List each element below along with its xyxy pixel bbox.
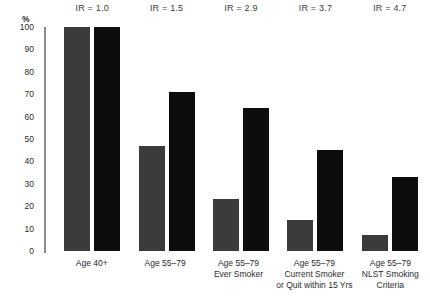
y-axis-tick-label: 40 xyxy=(25,156,34,166)
bar-group xyxy=(278,27,352,251)
ir-annotation: IR = 2.9 xyxy=(204,3,278,19)
x-axis-category-label: Age 55–79Current Smokeror Quit within 15… xyxy=(275,258,353,291)
y-axis-line xyxy=(44,27,46,253)
bar-group xyxy=(204,27,278,251)
bar-chart: IR = 1.0IR = 1.5IR = 2.9IR = 3.7IR = 4.7… xyxy=(0,0,430,303)
y-axis-tick-label: 90 xyxy=(25,44,34,54)
bar-series-2 xyxy=(392,177,418,251)
bar-group xyxy=(129,27,203,251)
plot-area xyxy=(55,27,427,251)
ir-annotation: IR = 1.0 xyxy=(55,3,129,19)
x-axis-category-label: Age 55–79NLST SmokingCriteria xyxy=(354,258,427,291)
bar-series-2 xyxy=(317,150,343,251)
x-axis-category-label: Age 55–79 xyxy=(128,258,201,291)
y-axis-tick-label: 60 xyxy=(25,112,34,122)
x-axis-label-line: Ever Smoker xyxy=(203,269,274,280)
x-axis-label-line: Age 55–79 xyxy=(203,258,274,269)
x-axis-label-line: Age 40+ xyxy=(56,258,127,269)
y-axis-tick-label: 70 xyxy=(25,89,34,99)
x-axis-label-line: Age 55–79 xyxy=(355,258,426,269)
bar-series-2 xyxy=(94,27,120,251)
x-axis-label-line: Age 55–79 xyxy=(276,258,352,269)
y-axis-tick-label: 30 xyxy=(25,179,34,189)
y-axis-tick-label: 10 xyxy=(25,224,34,234)
x-axis-category-labels: Age 40+Age 55–79Age 55–79Ever SmokerAge … xyxy=(55,258,427,291)
bar-series-1 xyxy=(362,235,388,251)
ir-annotation: IR = 1.5 xyxy=(129,3,203,19)
x-axis-label-line: Current Smoker xyxy=(276,269,352,280)
x-axis-category-label: Age 40+ xyxy=(55,258,128,291)
bar-series-1 xyxy=(64,27,90,251)
x-axis-label-line: or Quit within 15 Yrs xyxy=(276,280,352,291)
ir-annotation: IR = 3.7 xyxy=(278,3,352,19)
bar-series-1 xyxy=(139,146,165,251)
bar-series-2 xyxy=(243,108,269,251)
bar-group xyxy=(55,27,129,251)
bar-series-2 xyxy=(169,92,195,251)
y-axis-tick-label: 80 xyxy=(25,67,34,77)
bar-series-1 xyxy=(213,199,239,251)
x-axis-label-line: Criteria xyxy=(355,280,426,291)
y-axis-tick-label: 50 xyxy=(25,134,34,144)
y-axis-tick-label: 0 xyxy=(29,246,34,256)
y-axis-tick-label: 100 xyxy=(20,22,34,32)
annotation-row: IR = 1.0IR = 1.5IR = 2.9IR = 3.7IR = 4.7 xyxy=(55,3,427,19)
x-axis-label-line: Age 55–79 xyxy=(129,258,200,269)
x-axis-label-line: NLST Smoking xyxy=(355,269,426,280)
bar-group xyxy=(353,27,427,251)
ir-annotation: IR = 4.7 xyxy=(353,3,427,19)
x-axis-category-label: Age 55–79Ever Smoker xyxy=(202,258,275,291)
y-axis-tick-labels: 1009080706050403020100 xyxy=(0,27,42,251)
y-axis-tick-label: 20 xyxy=(25,201,34,211)
bar-series-1 xyxy=(287,220,313,251)
